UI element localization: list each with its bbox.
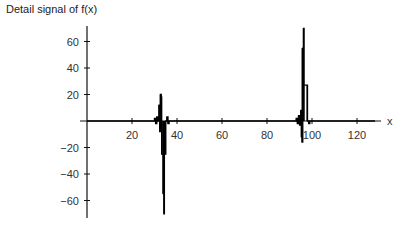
y-tick-label: 40 — [67, 62, 79, 74]
x-tick-label: 40 — [171, 129, 183, 141]
y-tick-label: −60 — [60, 195, 79, 207]
x-tick-label: 120 — [348, 129, 366, 141]
chart: Detail signal of f(x) 204060801001206040… — [0, 0, 412, 234]
series-line — [87, 28, 375, 214]
axes — [80, 26, 381, 218]
x-axis-label: x — [387, 115, 393, 127]
x-tick-label: 100 — [303, 129, 321, 141]
y-tick-label: 20 — [67, 89, 79, 101]
x-tick-label: 20 — [126, 129, 138, 141]
x-tick-label: 80 — [261, 129, 273, 141]
series-group — [87, 28, 375, 214]
y-tick-label: −40 — [60, 168, 79, 180]
chart-title: Detail signal of f(x) — [6, 3, 97, 15]
x-tick-label: 60 — [216, 129, 228, 141]
y-tick-label: −20 — [60, 142, 79, 154]
y-tick-label: 60 — [67, 36, 79, 48]
